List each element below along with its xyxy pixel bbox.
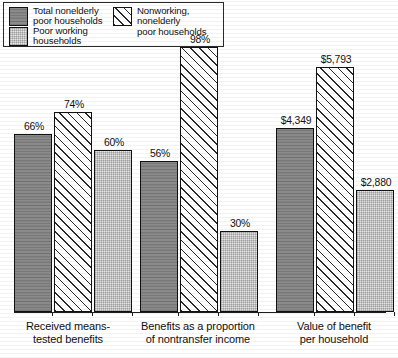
value-label-group-1-series-0: 56% [137,148,183,159]
value-label-group-0-series-2: 60% [91,137,137,148]
bar-group-2-series-1 [316,67,354,312]
plot-area: 66%74%60%56%98%30%$4,349$5,793$2,880 Rec… [0,0,398,358]
category-label-value-of-benefit-per-household: Value of benefit per household [276,320,392,345]
bar-group-0-series-0 [14,134,52,312]
axis-tick [354,312,355,316]
axis-tick [92,312,93,316]
axis-tick [132,312,133,316]
x-axis-baseline [14,312,386,313]
value-label-group-2-series-1: $5,793 [313,54,359,65]
bar-group-0-series-1 [54,112,92,312]
value-label-group-2-series-0: $4,349 [273,115,319,126]
value-label-group-0-series-0: 66% [11,121,57,132]
value-label-group-1-series-2: 30% [217,218,263,229]
value-label-group-2-series-2: $2,880 [353,177,398,188]
category-label-received-means-tested-benefits: Received means- tested benefits [6,320,130,345]
axis-tick [314,312,315,316]
axis-tick [394,312,395,316]
value-label-group-0-series-1: 74% [51,99,97,110]
bar-group-2-series-2 [356,190,394,312]
bar-group-1-series-1 [180,47,218,312]
axis-tick [218,312,219,316]
axis-tick [178,312,179,316]
category-label-benefits-as-proportion-of-nontransfer-income: Benefits as a proportion of nontransfer … [132,320,264,345]
axis-tick [258,312,259,316]
axis-tick [52,312,53,316]
bar-group-0-series-2 [94,150,132,312]
value-label-group-1-series-1: 98% [177,34,223,45]
bar-group-1-series-2 [220,231,258,312]
bar-group-2-series-0 [276,128,314,312]
bar-chart: Total nonelderly poor households Nonwork… [0,0,398,358]
bar-group-1-series-0 [140,161,178,312]
